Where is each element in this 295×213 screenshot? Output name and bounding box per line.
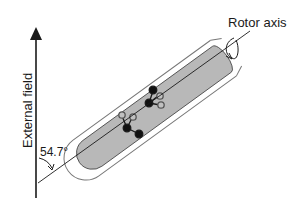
rotor	[55, 34, 244, 188]
rotor-axis-label: Rotor axis	[228, 15, 287, 30]
angle-arc	[39, 158, 52, 168]
rotor-axis-line	[38, 31, 250, 183]
rotation-arrow	[226, 38, 238, 59]
angle-label: 54.7°	[40, 145, 68, 159]
external-field-label: External field	[20, 73, 35, 148]
mas-diagram: External field Rotor axis 54.7°	[0, 0, 295, 213]
